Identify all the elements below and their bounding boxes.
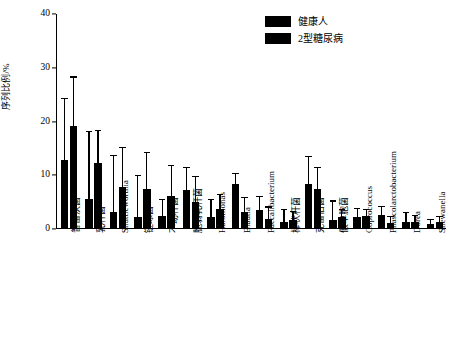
x-tick-label: 链球菌 (145, 206, 154, 233)
y-axis-label: 序列比例/% (0, 96, 12, 110)
bar (110, 212, 118, 228)
error-bar-cap (119, 147, 125, 148)
error-bar-cap (95, 130, 101, 131)
legend-label-healthy: 健康人 (298, 17, 328, 27)
bar (134, 217, 142, 228)
x-tick-label: Blautia (243, 207, 252, 233)
bar (280, 222, 288, 228)
error-bar-cap (168, 165, 174, 166)
legend: 健康人 2型糖尿病 (265, 16, 343, 50)
bar (85, 199, 93, 228)
error-bar-cap (314, 167, 320, 168)
legend-item-t2dm: 2型糖尿病 (265, 33, 343, 44)
error-bar-cap (70, 76, 76, 77)
error-bar-cap (159, 199, 165, 200)
x-tick-label: 棒状杆菌 (292, 197, 301, 233)
error-bar-cap (61, 98, 67, 99)
error-bar (186, 168, 187, 191)
error-bar (64, 99, 65, 160)
error-bar (357, 209, 358, 217)
legend-item-healthy: 健康人 (265, 16, 343, 27)
error-bar (137, 176, 138, 217)
error-bar (113, 156, 114, 212)
x-tick-label: 普雷沃菌 (72, 197, 81, 233)
error-bar-cap (256, 196, 262, 197)
error-bar-cap (86, 131, 92, 132)
error-bar (381, 207, 382, 215)
error-bar (405, 213, 406, 222)
bar (402, 222, 410, 228)
bar (256, 210, 264, 228)
y-tick-label: 40 (0, 9, 56, 19)
error-bar (73, 78, 74, 126)
error-bar (171, 166, 172, 196)
error-bar-cap (378, 206, 384, 207)
x-tick-label: 不动杆菌 (170, 197, 179, 233)
bar (353, 217, 361, 228)
error-bar (97, 131, 98, 163)
error-bar-cap (305, 156, 311, 157)
x-tick-label: Dorea (413, 211, 422, 233)
error-bar-cap (427, 219, 433, 220)
error-bar-cap (135, 175, 141, 176)
error-bar (162, 200, 163, 216)
error-bar-cap (281, 209, 287, 210)
error-bar (332, 202, 333, 220)
x-tick-label: 乳杆菌 (97, 206, 106, 233)
error-bar-cap (241, 197, 247, 198)
bar (378, 215, 386, 228)
y-tick-label: 20 (0, 117, 56, 127)
error-bar (210, 200, 211, 217)
error-bar-cap (403, 212, 409, 213)
error-bar (235, 174, 236, 185)
x-tick-label: 克雷伯菌 (316, 197, 325, 233)
bar (61, 160, 69, 228)
x-tick-label: Shuttleworthia (121, 180, 130, 233)
x-tick-label: 假单胞菌 (340, 197, 349, 233)
x-tick-label: Phascolarctobacterium (389, 151, 398, 233)
legend-swatch-healthy (265, 16, 291, 27)
error-bar (146, 153, 147, 188)
error-bar (88, 132, 89, 199)
x-tick-label: Coprococcus (365, 186, 374, 233)
error-bar-cap (354, 208, 360, 209)
error-bar-cap (183, 167, 189, 168)
x-tick-label: Halomonas (218, 192, 227, 233)
error-bar (283, 210, 284, 222)
bar-chart: 序列比例/% 010203040 普雷沃菌乳杆菌Shuttleworthia链球… (0, 0, 469, 348)
bar (183, 190, 191, 228)
error-bar-cap (144, 152, 150, 153)
bar (232, 184, 240, 228)
error-bar (317, 168, 318, 190)
error-bar-cap (110, 155, 116, 156)
bar (305, 184, 313, 228)
bar (427, 224, 435, 228)
x-tick-label: Faecalibacterium (267, 171, 276, 233)
error-bar-cap (208, 199, 214, 200)
y-tick-label: 0 (0, 224, 56, 234)
x-tick-label: 脆弱乳杆菌 (194, 188, 203, 233)
x-tick-label: Shewanella (438, 192, 447, 233)
error-bar (259, 197, 260, 209)
error-bar-cap (232, 173, 238, 174)
bar (329, 220, 337, 228)
legend-label-t2dm: 2型糖尿病 (298, 34, 343, 44)
error-bar (430, 220, 431, 223)
y-tick-label: 30 (0, 63, 56, 73)
error-bar (308, 157, 309, 184)
error-bar-cap (192, 176, 198, 177)
bar (158, 216, 166, 228)
bar (207, 217, 215, 228)
legend-swatch-t2dm (265, 33, 291, 44)
y-tick-label: 10 (0, 171, 56, 181)
error-bar-cap (330, 200, 336, 201)
